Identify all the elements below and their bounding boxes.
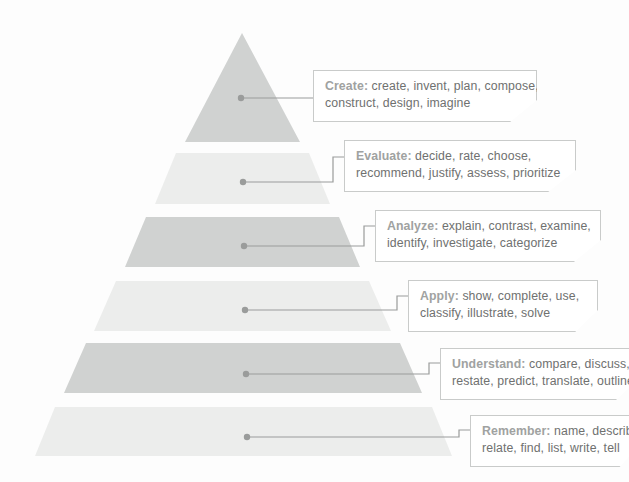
callout-line2-analyze: identify, investigate, categorize [387,235,591,252]
pyramid-tier-create[interactable] [185,33,300,142]
blooms-taxonomy-diagram: Create: create, invent, plan, compose, c… [0,0,629,482]
callout-line1-evaluate: decide, rate, choose, [412,149,532,163]
callout-apply[interactable]: Apply: show, complete, use, classify, il… [408,280,598,332]
callout-line1-remember: name, describ [551,424,629,438]
pyramid-tier-remember[interactable] [35,407,452,456]
pyramid-tier-understand[interactable] [64,343,422,393]
callout-line2-apply: classify, illustrate, solve [420,305,588,322]
callout-analyze[interactable]: Analyze: explain, contrast, examine, ide… [375,210,601,262]
callout-line1-analyze: explain, contrast, examine, [438,219,591,233]
callout-line1-create: create, invent, plan, compose, [368,79,539,93]
callout-lead-remember: Remember: [482,424,551,438]
callout-lead-analyze: Analyze: [387,219,438,233]
callout-lead-understand: Understand: [452,357,526,371]
callout-remember[interactable]: Remember: name, describ relate, find, li… [470,415,629,467]
callout-line2-understand: restate, predict, translate, outline [452,373,629,390]
pyramid-tier-apply[interactable] [94,281,391,331]
callout-line1-apply: show, complete, use, [459,289,579,303]
pyramid-tier-evaluate[interactable] [155,153,330,204]
callout-create[interactable]: Create: create, invent, plan, compose, c… [313,70,537,122]
callout-line2-create: construct, design, imagine [325,95,527,112]
callout-lead-apply: Apply: [420,289,459,303]
callout-understand[interactable]: Understand: compare, discuss, restate, p… [440,348,629,400]
callout-lead-evaluate: Evaluate: [356,149,412,163]
callout-line2-evaluate: recommend, justify, assess, prioritize [356,165,566,182]
callout-line1-understand: compare, discuss, [526,357,629,371]
callout-evaluate[interactable]: Evaluate: decide, rate, choose, recommen… [344,140,576,192]
callout-line2-remember: relate, find, list, write, tell [482,440,629,457]
pyramid-tier-analyze[interactable] [125,217,360,267]
callout-lead-create: Create: [325,79,368,93]
